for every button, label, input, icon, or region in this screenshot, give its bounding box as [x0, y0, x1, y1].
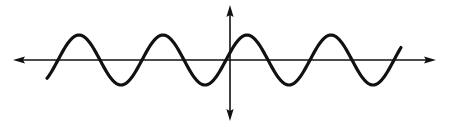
sine-wave-diagram: [0, 0, 449, 127]
